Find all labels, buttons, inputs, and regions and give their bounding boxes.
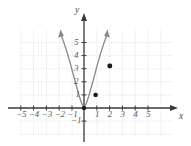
coordinate-plane-svg bbox=[0, 0, 191, 146]
data-point-origin bbox=[82, 106, 86, 110]
y-tick-label-3: 3 bbox=[74, 64, 79, 73]
data-point-one-one bbox=[94, 93, 98, 97]
y-axis-label: y bbox=[75, 6, 79, 16]
x-tick-label-5: 5 bbox=[146, 110, 151, 119]
x-tick-label-neg1: −1 bbox=[67, 110, 78, 119]
x-tick-label-neg4: −4 bbox=[29, 110, 40, 119]
parabola-graph-figure: y x 5 4 3 2 1 −1 −5 −4 −3 −2 −1 1 2 3 4 … bbox=[0, 0, 191, 146]
x-tick-label-neg5: −5 bbox=[16, 110, 27, 119]
y-tick-label-2: 2 bbox=[74, 77, 79, 86]
x-axis-label: x bbox=[179, 112, 183, 122]
y-axis bbox=[81, 13, 87, 142]
x-tick-label-1: 1 bbox=[95, 110, 100, 119]
x-tick-label-3: 3 bbox=[120, 110, 125, 119]
y-tick-label-1: 1 bbox=[76, 90, 81, 99]
x-tick-label-4: 4 bbox=[133, 110, 138, 119]
grid-horizontal-lines bbox=[20, 43, 172, 135]
grid-vertical-lines bbox=[21, 30, 161, 135]
data-point-two-three bbox=[108, 64, 113, 69]
x-tick-label-neg3: −3 bbox=[42, 110, 53, 119]
x-tick-label-2: 2 bbox=[108, 110, 113, 119]
x-tick-label-neg2: −2 bbox=[54, 110, 65, 119]
y-tick-label-4: 4 bbox=[74, 51, 79, 60]
y-tick-label-5: 5 bbox=[74, 38, 79, 47]
